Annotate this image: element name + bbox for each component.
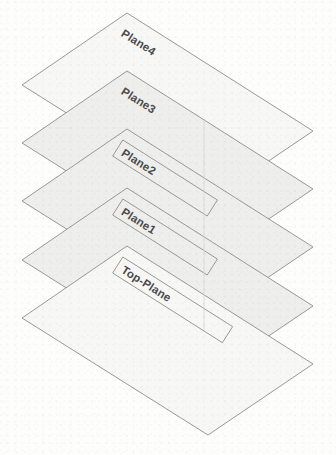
planes-stack-diagram: Plane4 Plane3 Plane2 Plane1 (0, 0, 336, 455)
diagram-canvas: Plane4 Plane3 Plane2 Plane1 (0, 0, 336, 455)
